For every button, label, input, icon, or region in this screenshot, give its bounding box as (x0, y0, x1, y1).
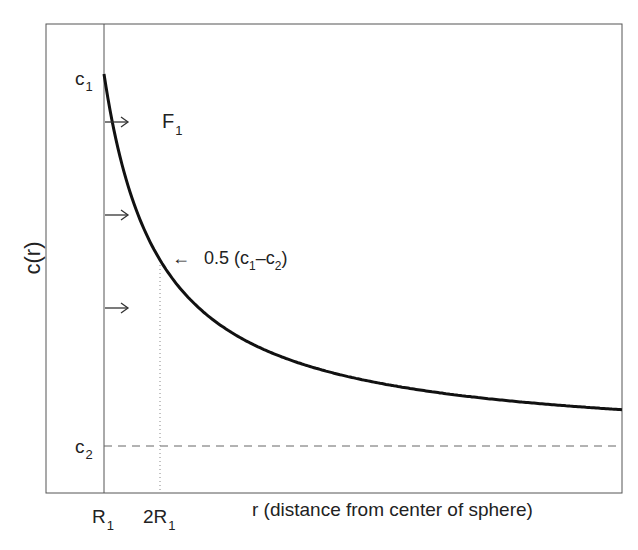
c1-tick-label: c1 (75, 68, 93, 94)
c2-tick-label: c2 (75, 436, 93, 462)
concentration-diagram: c(r) c1 c2 F1 ← 0.5 (c1–c2) R1 2R1 r (di… (0, 0, 638, 550)
flux-label: F1 (162, 110, 182, 138)
x-axis-label: r (distance from center of sphere) (252, 499, 533, 520)
flux-arrow-icon (105, 303, 128, 313)
y-axis-label: c(r) (20, 242, 45, 275)
plot-frame (46, 24, 622, 493)
flux-arrow-icon (105, 117, 128, 127)
half-value-label: 0.5 (c1–c2) (204, 248, 287, 273)
r1-tick-label: R1 (92, 506, 114, 533)
2r1-tick-label: 2R1 (143, 506, 176, 533)
half-arrow-icon: ← (172, 248, 190, 268)
flux-arrow-icon (105, 210, 128, 220)
